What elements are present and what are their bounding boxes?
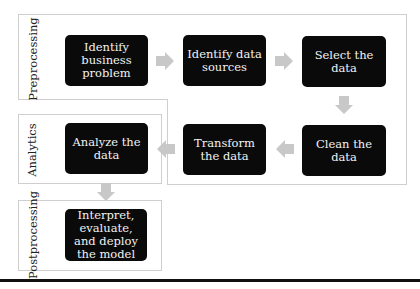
step-clean-the-data: Clean the data <box>302 125 386 176</box>
panel-border <box>167 184 407 185</box>
arrow-right-icon <box>156 52 174 70</box>
step-select-the-data: Select the data <box>302 36 386 87</box>
phase-label-preprocessing: Preprocessing <box>26 14 40 104</box>
phase-label-postprocessing: Postprocessing <box>26 190 40 280</box>
step-interpret-evaluate-deploy: Interpret, evaluate, and deploy the mode… <box>65 209 147 261</box>
arrow-down-icon <box>97 183 115 201</box>
panel-border <box>18 14 19 100</box>
step-analyze-the-data: Analyze the data <box>65 123 148 174</box>
panel-border <box>18 99 168 100</box>
step-identify-business-problem: Identify business problem <box>65 35 148 86</box>
step-transform-the-data: Transform the data <box>183 124 266 175</box>
panel-border <box>406 14 407 185</box>
process-diagram: Preprocessing Analytics Postprocessing I… <box>0 0 420 289</box>
arrow-down-icon <box>335 96 353 114</box>
phase-label-analytics: Analytics <box>25 115 39 185</box>
arrow-left-icon <box>276 140 294 158</box>
arrow-right-icon <box>275 52 293 70</box>
bottom-rule <box>0 279 420 282</box>
panel-border <box>18 14 407 15</box>
arrow-left-icon <box>157 140 175 158</box>
step-identify-data-sources: Identify data sources <box>183 35 266 86</box>
